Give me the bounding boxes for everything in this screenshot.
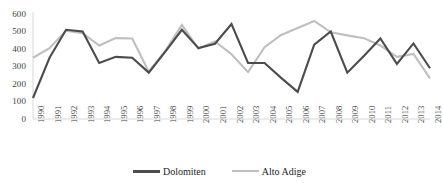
thin-line-swatch bbox=[232, 170, 259, 172]
legend-entry-dolomiten[interactable]: Dolomiten bbox=[133, 166, 206, 177]
chart-legend: DolomitenAlto Adige bbox=[0, 162, 439, 180]
axis-lines bbox=[33, 12, 430, 119]
series-line-dolomiten bbox=[33, 24, 430, 98]
legend-label: Alto Adige bbox=[262, 166, 306, 177]
legend-label: Dolomiten bbox=[163, 166, 206, 177]
legend-entry-alto-adige[interactable]: Alto Adige bbox=[232, 166, 306, 177]
thick-line-swatch bbox=[133, 170, 160, 173]
series-lines bbox=[33, 21, 430, 98]
